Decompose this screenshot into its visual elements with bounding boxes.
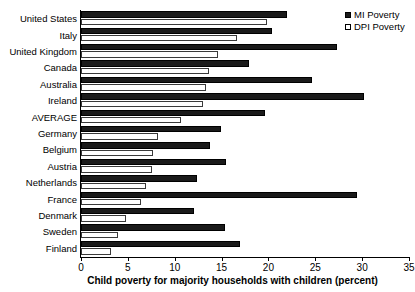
plot-area: United StatesItalyUnited KingdomCanadaAu… — [81, 10, 409, 256]
x-tick-label: 15 — [216, 262, 227, 273]
bar-dpi-poverty — [81, 117, 181, 123]
bar-dpi-poverty — [81, 183, 146, 189]
x-tick — [315, 257, 316, 261]
bar-mi-poverty — [81, 28, 272, 34]
x-tick-label: 5 — [125, 262, 131, 273]
bar-dpi-poverty — [81, 150, 153, 156]
category-label: Sweden — [43, 226, 77, 237]
bar-dpi-poverty — [81, 101, 203, 107]
x-tick — [175, 257, 176, 261]
bar-mi-poverty — [81, 44, 337, 50]
bar-row: Finland — [81, 240, 409, 256]
bar-dpi-poverty — [81, 215, 126, 221]
bar-mi-poverty — [81, 60, 249, 66]
category-label: United States — [20, 13, 77, 24]
bar-row: United Kingdom — [81, 43, 409, 59]
x-tick-label: 35 — [403, 262, 414, 273]
x-tick — [409, 257, 410, 261]
category-label: Australia — [40, 78, 77, 89]
category-label: France — [47, 193, 77, 204]
x-tick-label: 10 — [169, 262, 180, 273]
x-axis-title: Child poverty for majority households wi… — [0, 275, 415, 286]
bar-mi-poverty — [81, 175, 197, 181]
category-label: AVERAGE — [32, 111, 77, 122]
x-tick — [81, 257, 82, 261]
bar-mi-poverty — [81, 159, 226, 165]
category-label: Ireland — [48, 95, 77, 106]
bar-mi-poverty — [81, 241, 240, 247]
x-tick — [222, 257, 223, 261]
bar-row: France — [81, 190, 409, 206]
bar-mi-poverty — [81, 110, 265, 116]
x-tick — [362, 257, 363, 261]
bar-dpi-poverty — [81, 68, 209, 74]
bar-row: Canada — [81, 59, 409, 75]
bar-row: Denmark — [81, 207, 409, 223]
x-tick-label: 25 — [310, 262, 321, 273]
bar-chart: United StatesItalyUnited KingdomCanadaAu… — [0, 0, 415, 292]
x-tick-label: 30 — [357, 262, 368, 273]
bar-row: Sweden — [81, 223, 409, 239]
category-label: Denmark — [38, 209, 77, 220]
bar-dpi-poverty — [81, 133, 158, 139]
bar-mi-poverty — [81, 126, 221, 132]
category-label: Austria — [47, 160, 77, 171]
bar-mi-poverty — [81, 224, 225, 230]
open-square-icon — [345, 24, 351, 30]
bar-row: Belgium — [81, 141, 409, 157]
bar-dpi-poverty — [81, 19, 267, 25]
bar-row: Ireland — [81, 92, 409, 108]
bar-mi-poverty — [81, 93, 364, 99]
category-label: Italy — [60, 29, 77, 40]
bar-dpi-poverty — [81, 248, 111, 254]
legend-label-mi-poverty: MI Poverty — [354, 9, 399, 21]
bar-dpi-poverty — [81, 84, 206, 90]
bar-dpi-poverty — [81, 199, 141, 205]
filled-square-icon — [345, 12, 351, 18]
bar-dpi-poverty — [81, 51, 218, 57]
bar-dpi-poverty — [81, 166, 152, 172]
category-label: United Kingdom — [9, 45, 77, 56]
x-axis-line — [80, 257, 409, 258]
bar-dpi-poverty — [81, 232, 118, 238]
bar-row: Australia — [81, 76, 409, 92]
legend-label-dpi-poverty: DPI Poverty — [354, 21, 405, 33]
x-tick-label: 20 — [263, 262, 274, 273]
category-label: Belgium — [43, 144, 77, 155]
category-label: Netherlands — [26, 177, 77, 188]
bar-mi-poverty — [81, 192, 357, 198]
bar-dpi-poverty — [81, 35, 237, 41]
bar-mi-poverty — [81, 208, 194, 214]
bar-row: Germany — [81, 125, 409, 141]
x-tick-label: 0 — [78, 262, 84, 273]
bar-row: AVERAGE — [81, 108, 409, 124]
x-tick — [128, 257, 129, 261]
bar-row: Austria — [81, 158, 409, 174]
bar-rows: United StatesItalyUnited KingdomCanadaAu… — [81, 10, 409, 256]
chart-legend: MI Poverty DPI Poverty — [345, 9, 405, 33]
x-tick — [268, 257, 269, 261]
x-axis-title-label: Child poverty for majority households wi… — [37, 275, 378, 286]
legend-item-mi-poverty: MI Poverty — [345, 9, 405, 21]
bar-mi-poverty — [81, 142, 210, 148]
category-label: Germany — [38, 127, 77, 138]
bar-mi-poverty — [81, 77, 312, 83]
bar-row: Netherlands — [81, 174, 409, 190]
legend-item-dpi-poverty: DPI Poverty — [345, 21, 405, 33]
category-label: Finland — [46, 242, 77, 253]
category-label: Canada — [44, 62, 77, 73]
bar-mi-poverty — [81, 11, 287, 17]
